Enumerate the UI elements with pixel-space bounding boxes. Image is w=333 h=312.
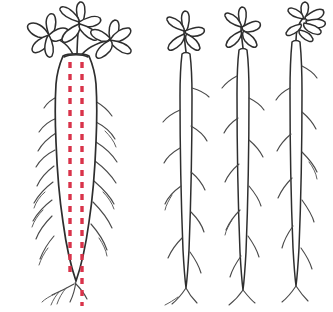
- illustration-canvas: [0, 0, 333, 312]
- root-morphology-figure: [0, 0, 333, 312]
